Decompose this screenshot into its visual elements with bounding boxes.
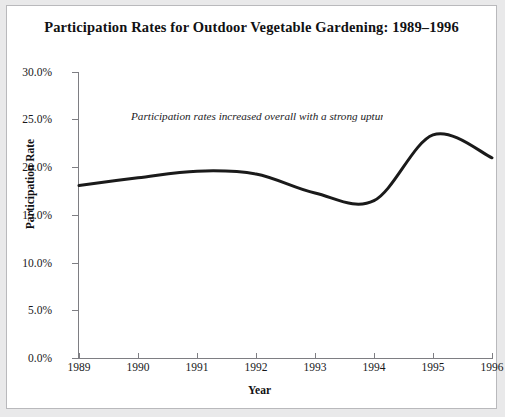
- y-axis-title: Participation Rate: [24, 114, 36, 254]
- chart-annotation: Participation rates increased overall wi…: [131, 110, 383, 122]
- x-axis-tick: [433, 353, 434, 359]
- y-axis-tick: [72, 263, 79, 264]
- x-axis-tick-label: 1993: [304, 361, 327, 373]
- x-axis-tick-label: 1991: [186, 361, 209, 373]
- x-axis-title: Year: [7, 384, 505, 396]
- x-axis-tick: [374, 353, 375, 359]
- y-axis-tick: [72, 310, 79, 311]
- y-axis-tick: [72, 119, 79, 120]
- y-axis-tick-label: 5.0%: [28, 304, 52, 316]
- x-axis-tick-label: 1996: [481, 361, 504, 373]
- x-axis-tick: [256, 353, 257, 359]
- y-axis-tick: [72, 215, 79, 216]
- x-axis-tick-label: 1995: [422, 361, 445, 373]
- x-axis-tick: [138, 353, 139, 359]
- x-axis-tick: [315, 353, 316, 359]
- y-axis-tick-label: 10.0%: [22, 257, 52, 269]
- x-axis-tick: [79, 353, 80, 359]
- y-axis-tick: [72, 167, 79, 168]
- x-axis-tick-label: 1989: [68, 361, 91, 373]
- chart-title: Participation Rates for Outdoor Vegetabl…: [7, 19, 496, 36]
- x-axis-tick-label: 1992: [245, 361, 268, 373]
- y-axis-tick-label: 0.0%: [28, 352, 52, 364]
- chart-figure: Participation Rates for Outdoor Vegetabl…: [6, 5, 497, 409]
- x-axis-tick-label: 1990: [127, 361, 150, 373]
- y-axis-tick-label: 30.0%: [22, 66, 52, 78]
- x-axis-line: [78, 358, 493, 359]
- x-axis-tick: [197, 353, 198, 359]
- x-axis-tick-label: 1994: [363, 361, 386, 373]
- y-axis-tick: [72, 358, 79, 359]
- y-axis-tick: [72, 72, 79, 73]
- x-axis-tick: [492, 353, 493, 359]
